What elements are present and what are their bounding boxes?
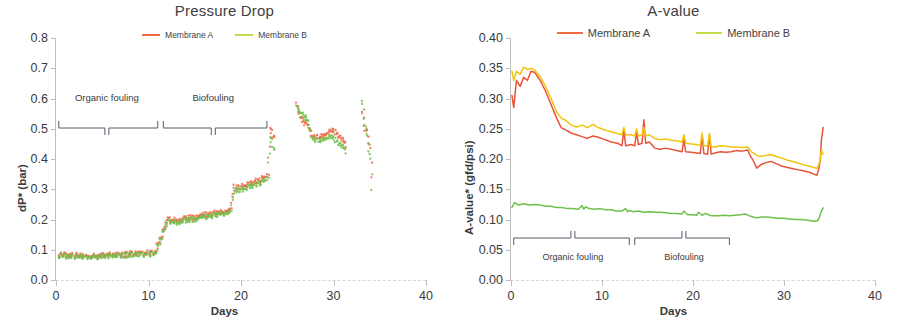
y-axis-tick — [51, 220, 56, 221]
x-axis-tick — [693, 280, 694, 286]
y-axis-tick-label: 0.4 — [0, 152, 48, 166]
x-axis-tick — [149, 280, 150, 286]
data-layer — [511, 38, 875, 280]
legend-swatch-membrane-a — [557, 32, 583, 34]
y-axis-tick-label: 0.3 — [0, 182, 48, 196]
y-axis-tick-label: 0.7 — [0, 61, 48, 75]
y-axis-tick — [506, 250, 511, 251]
y-axis-tick — [506, 220, 511, 221]
x-axis-tick-label: 0 — [53, 289, 60, 303]
annotation-label: Organic fouling — [543, 252, 604, 262]
y-axis-tick — [51, 189, 56, 190]
series-membrane-a — [58, 101, 374, 259]
series-membrane-b-green- — [512, 203, 823, 222]
y-axis-tick-label: 0.35 — [453, 61, 503, 75]
y-axis-tick-label: 0.2 — [0, 213, 48, 227]
y-axis-tick-label: 0.0 — [0, 273, 48, 287]
x-axis-tick — [875, 280, 876, 286]
x-axis-tick — [426, 280, 427, 286]
annotation-label: Organic fouling — [75, 92, 139, 103]
y-axis-tick — [51, 99, 56, 100]
y-axis-tick — [51, 129, 56, 130]
y-axis-tick — [51, 38, 56, 39]
y-axis-tick-label: 0.10 — [453, 213, 503, 227]
legend-swatch-membrane-a — [142, 34, 160, 36]
y-axis-tick-label: 0.30 — [453, 92, 503, 106]
x-axis-tick — [56, 280, 57, 286]
plot-area-pressure-drop — [56, 38, 426, 280]
y-axis-tick — [51, 250, 56, 251]
x-axis-title-pressure-drop: Days — [0, 305, 449, 317]
annotation-label: Biofouling — [664, 252, 704, 262]
x-axis-tick-label: 0 — [508, 289, 515, 303]
x-axis-tick-label: 40 — [868, 289, 882, 303]
figure-two-panel-chart: Pressure Drop Membrane A Membrane B dP* … — [0, 0, 898, 327]
y-axis-tick-label: 0.40 — [453, 31, 503, 45]
y-axis-tick-label: 0.8 — [0, 31, 48, 45]
series-membrane-b — [58, 100, 374, 261]
x-axis-tick-label: 20 — [686, 289, 700, 303]
y-axis-tick-label: 0.05 — [453, 243, 503, 257]
y-axis-tick — [506, 189, 511, 190]
x-axis-tick — [784, 280, 785, 286]
x-axis-tick — [241, 280, 242, 286]
x-axis-tick — [511, 280, 512, 286]
x-axis-tick-label: 40 — [419, 289, 433, 303]
x-axis-tick-label: 10 — [142, 289, 156, 303]
y-axis-tick-label: 0.00 — [453, 273, 503, 287]
y-axis-tick — [51, 159, 56, 160]
x-axis-tick-label: 30 — [327, 289, 341, 303]
x-axis-tick — [334, 280, 335, 286]
x-axis-title-a-value: Days — [449, 305, 898, 317]
y-axis-tick — [506, 99, 511, 100]
chart-title-pressure-drop: Pressure Drop — [0, 2, 449, 19]
x-axis-tick-label: 10 — [595, 289, 609, 303]
plot-area-a-value — [511, 38, 875, 280]
y-axis-tick-label: 0.1 — [0, 243, 48, 257]
series-membrane-b — [512, 67, 823, 169]
y-axis-tick-label: 0.20 — [453, 152, 503, 166]
y-axis-tick — [506, 38, 511, 39]
series-membrane-a — [512, 71, 823, 175]
legend-swatch-membrane-b — [235, 34, 253, 36]
y-axis-tick-label: 0.25 — [453, 122, 503, 136]
y-axis-tick-label: 0.6 — [0, 92, 48, 106]
annotation-label: Biofouling — [192, 92, 234, 103]
x-axis-tick — [602, 280, 603, 286]
x-axis-tick-label: 30 — [777, 289, 791, 303]
legend-swatch-membrane-b — [696, 32, 722, 34]
panel-a-value: A-value Membrane A Membrane B A-value* (… — [449, 0, 898, 327]
y-axis-tick — [506, 129, 511, 130]
y-axis-tick-label: 0.15 — [453, 182, 503, 196]
y-axis-tick — [506, 68, 511, 69]
chart-title-a-value: A-value — [449, 2, 898, 19]
y-axis-tick — [506, 159, 511, 160]
y-axis-tick-label: 0.5 — [0, 122, 48, 136]
panel-pressure-drop: Pressure Drop Membrane A Membrane B dP* … — [0, 0, 449, 327]
data-layer — [56, 38, 426, 280]
y-axis-tick — [51, 68, 56, 69]
x-axis-tick-label: 20 — [234, 289, 248, 303]
